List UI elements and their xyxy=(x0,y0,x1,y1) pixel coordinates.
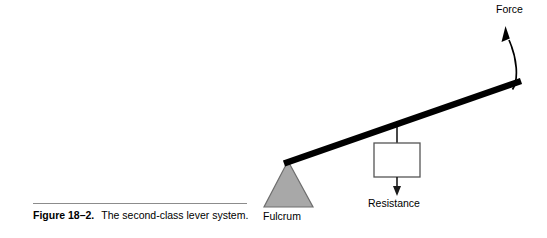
label-force: Force xyxy=(496,3,523,16)
force-arrow-head xyxy=(502,26,510,42)
resistance-box xyxy=(374,143,420,177)
caption-text: Figure 18–2.The second-class lever syste… xyxy=(33,209,247,222)
figure-caption: Figure 18–2.The second-class lever syste… xyxy=(33,203,247,222)
figure-container: Force Fulcrum Resistance Figure 18–2.The… xyxy=(0,0,547,238)
label-fulcrum: Fulcrum xyxy=(263,210,301,223)
resistance-arrow-head xyxy=(393,186,401,196)
fulcrum-triangle xyxy=(264,161,313,207)
caption-title: The second-class lever system. xyxy=(101,209,248,221)
caption-number: Figure 18–2. xyxy=(33,209,94,221)
caption-divider xyxy=(33,203,247,204)
label-resistance: Resistance xyxy=(368,197,420,210)
